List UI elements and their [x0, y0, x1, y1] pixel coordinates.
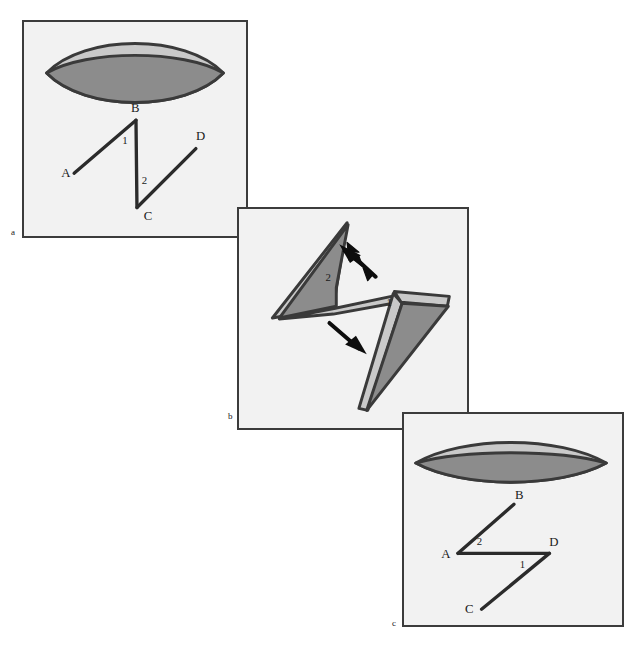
label-point-c: C — [144, 209, 153, 223]
label-point-d: D — [196, 129, 205, 143]
label-point-a: A — [441, 547, 451, 561]
figure-root: A B C D 1 2 a — [0, 0, 634, 652]
zigzag-segment-ab — [74, 120, 136, 173]
lens-dark-body — [47, 55, 224, 102]
panel-letter-b: b — [228, 412, 233, 421]
label-angle-1: 1 — [122, 134, 127, 146]
label-angle-2: 2 — [325, 271, 330, 283]
panel-c: B A D C 2 1 — [402, 412, 624, 627]
figure-caption — [8, 636, 428, 646]
upper-left-arrow — [339, 242, 375, 280]
label-angle-1: 1 — [386, 296, 391, 308]
zigzag-segment-bc — [136, 120, 137, 207]
lens-dark-body — [416, 453, 607, 482]
panel-c-graphic: B A D C 2 1 — [404, 414, 622, 625]
upper-wing-dark-face — [279, 225, 348, 318]
label-angle-2: 2 — [477, 536, 482, 548]
label-angle-2: 2 — [142, 174, 147, 186]
panel-letter-c: c — [392, 619, 396, 628]
panel-letter-a: a — [11, 228, 15, 237]
panel-b: 2 1 — [237, 207, 469, 430]
label-point-d: D — [549, 535, 558, 549]
lower-right-arrow — [329, 323, 366, 354]
label-point-c: C — [465, 602, 474, 616]
zigzag-segment-dc — [482, 553, 550, 609]
label-angle-1: 1 — [520, 558, 525, 570]
panel-a-graphic: A B C D 1 2 — [24, 22, 246, 236]
label-point-a: A — [61, 166, 71, 180]
zigzag-segment-ba — [458, 504, 514, 553]
panel-a: A B C D 1 2 — [22, 20, 248, 238]
panel-b-graphic: 2 1 — [239, 209, 467, 428]
label-point-b: B — [515, 488, 524, 502]
label-point-b: B — [131, 101, 140, 115]
